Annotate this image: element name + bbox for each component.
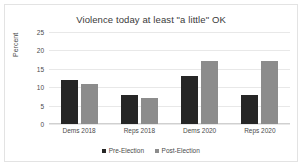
bar-group: [109, 32, 169, 124]
y-axis-tick-label: 5: [40, 102, 44, 109]
bar-post-election[interactable]: [141, 98, 158, 124]
y-axis-tick-label: 25: [37, 29, 44, 36]
legend-item[interactable]: Pre-Election: [102, 147, 144, 154]
legend-swatch-icon: [155, 149, 159, 153]
bar-pre-election[interactable]: [241, 95, 258, 124]
legend-item[interactable]: Post-Election: [155, 147, 200, 154]
gridline: 0: [49, 124, 290, 125]
plot-area: 0510152025: [49, 32, 290, 124]
chart-title: Violence today at least "a little" OK: [5, 14, 297, 25]
bar-pre-election[interactable]: [61, 80, 78, 124]
x-axis-label: Reps 2020: [230, 127, 290, 134]
x-axis-label: Reps 2018: [109, 127, 169, 134]
bar-pre-election[interactable]: [181, 76, 198, 124]
bar-group: [170, 32, 230, 124]
y-axis-tick-label: 10: [37, 84, 44, 91]
x-axis-labels: Dems 2018Reps 2018Dems 2020Reps 2020: [49, 127, 290, 134]
bar-group: [49, 32, 109, 124]
x-axis-label: Dems 2018: [49, 127, 109, 134]
y-axis-tick-label: 0: [40, 121, 44, 128]
chart-frame: Violence today at least "a little" OK Pe…: [4, 4, 298, 162]
bar-groups: [49, 32, 290, 124]
legend-label: Post-Election: [162, 147, 200, 154]
chart-legend: Pre-ElectionPost-Election: [5, 147, 297, 154]
y-axis-title: Percent: [12, 33, 19, 57]
bar-post-election[interactable]: [261, 61, 278, 124]
legend-swatch-icon: [102, 149, 106, 153]
legend-label: Pre-Election: [109, 147, 144, 154]
y-axis-tick-label: 20: [37, 47, 44, 54]
x-axis-label: Dems 2020: [170, 127, 230, 134]
bar-pre-election[interactable]: [121, 95, 138, 124]
bar-post-election[interactable]: [201, 61, 218, 124]
bar-group: [230, 32, 290, 124]
bar-post-election[interactable]: [81, 84, 98, 124]
y-axis-tick-label: 15: [37, 65, 44, 72]
